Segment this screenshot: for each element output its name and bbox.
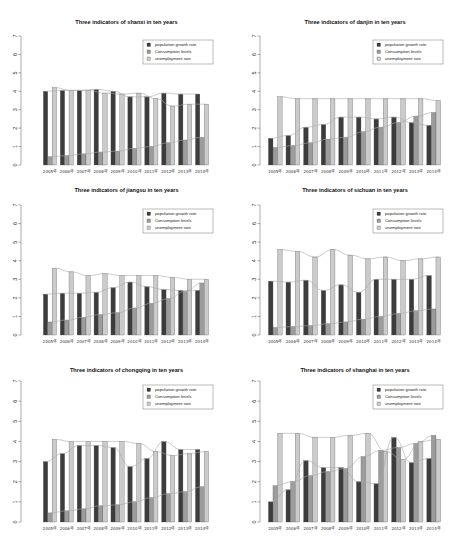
- chart-svg: Three indicators of shanxi in ten years0…: [0, 0, 229, 183]
- bar-unemployment-rate: [69, 90, 73, 165]
- legend-swatch: [147, 50, 151, 54]
- x-tick-label: 2007年: [303, 168, 317, 174]
- bar-population-growth-rate: [339, 468, 344, 522]
- legend-label: population growth rate: [385, 387, 427, 392]
- bar-unemployment-rate: [313, 257, 318, 335]
- x-tick-label: 2014年: [427, 338, 441, 344]
- bar-consumption-levels: [48, 322, 52, 335]
- y-axis: 01234567: [12, 34, 21, 166]
- bar-population-growth-rate: [60, 454, 64, 522]
- y-tick-label: 3: [12, 278, 18, 281]
- x-tick-label: 2013年: [178, 168, 192, 174]
- x-tick-label: 2010年: [127, 338, 141, 344]
- bar-unemployment-rate: [295, 433, 300, 522]
- x-tick-label: 2006年: [286, 525, 300, 531]
- y-tick-label: 6: [251, 53, 257, 56]
- legend-swatch: [147, 219, 151, 223]
- bar-consumption-levels: [200, 487, 204, 522]
- y-tick-label: 1: [251, 500, 257, 503]
- chart-svg: Three indicators of danjin in ten years0…: [230, 0, 459, 183]
- chart-svg: Three indicators of chongqing in ten yea…: [0, 366, 229, 549]
- bars: [268, 97, 440, 165]
- y-tick-label: 0: [12, 163, 18, 166]
- bar-consumption-levels: [183, 291, 187, 335]
- x-tick-label: 2012年: [161, 168, 175, 174]
- y-tick-label: 0: [251, 520, 257, 523]
- legend-label: Consumption levels: [155, 49, 192, 54]
- bar-unemployment-rate: [204, 452, 208, 523]
- bar-consumption-levels: [98, 152, 102, 165]
- legend-label: population growth rate: [155, 42, 197, 47]
- chart-panel-danjin: Three indicators of danjin in ten years0…: [230, 0, 459, 183]
- legend-label: Consumption levels: [155, 394, 192, 399]
- bar-population-growth-rate: [409, 279, 414, 335]
- legend-swatch: [377, 402, 381, 406]
- legend-swatch: [147, 57, 151, 61]
- bar-population-growth-rate: [111, 447, 115, 522]
- y-tick-label: 3: [251, 108, 257, 111]
- bar-unemployment-rate: [418, 259, 423, 335]
- bar-unemployment-rate: [313, 99, 318, 165]
- bar-unemployment-rate: [86, 441, 90, 522]
- bar-consumption-levels: [361, 132, 366, 165]
- x-tick-label: 2008年: [321, 168, 335, 174]
- x-tick-label: 2005年: [43, 338, 57, 344]
- legend-swatch: [147, 388, 151, 392]
- x-tick-label: 2011年: [144, 338, 158, 344]
- bar-population-growth-rate: [286, 490, 291, 522]
- bar-population-growth-rate: [195, 449, 199, 522]
- y-tick-label: 5: [251, 241, 257, 244]
- x-tick-label: 2005年: [268, 338, 282, 344]
- bar-consumption-levels: [132, 502, 136, 522]
- bar-consumption-levels: [414, 443, 419, 522]
- x-tick-label: 2009年: [339, 168, 353, 174]
- y-tick-label: 7: [251, 34, 257, 37]
- bar-consumption-levels: [431, 435, 436, 522]
- chart-title: Three indicators of danjin in ten years: [304, 19, 405, 25]
- y-tick-label: 5: [12, 71, 18, 74]
- x-tick-label: 2014年: [195, 338, 209, 344]
- bar-population-growth-rate: [179, 449, 183, 522]
- bar-unemployment-rate: [436, 101, 441, 166]
- bar-unemployment-rate: [348, 99, 353, 165]
- bar-unemployment-rate: [348, 435, 353, 522]
- bars: [268, 250, 440, 335]
- bar-unemployment-rate: [418, 99, 423, 165]
- x-tick-label: 2012年: [161, 338, 175, 344]
- bar-consumption-levels: [273, 328, 278, 335]
- bar-unemployment-rate: [103, 441, 107, 522]
- x-tick-label: 2009年: [110, 338, 124, 344]
- x-tick-label: 2007年: [77, 338, 91, 344]
- bar-population-growth-rate: [268, 138, 273, 165]
- bar-consumption-levels: [115, 151, 119, 165]
- bar-consumption-levels: [431, 309, 436, 335]
- y-tick-label: 6: [12, 222, 18, 225]
- legend-label: Consumption levels: [385, 49, 422, 54]
- bar-consumption-levels: [115, 505, 119, 522]
- bar-consumption-levels: [273, 486, 278, 522]
- bar-population-growth-rate: [195, 290, 199, 335]
- bar-population-growth-rate: [392, 117, 397, 165]
- bar-population-growth-rate: [43, 462, 47, 522]
- x-tick-label: 2006年: [286, 338, 300, 344]
- legend-swatch: [377, 219, 381, 223]
- x-tick-label: 2013年: [178, 525, 192, 531]
- bar-consumption-levels: [361, 319, 366, 335]
- y-tick-label: 4: [251, 440, 257, 443]
- y-tick-label: 6: [12, 53, 18, 56]
- bar-population-growth-rate: [304, 461, 309, 522]
- bar-unemployment-rate: [120, 441, 124, 522]
- x-tick-label: 2010年: [356, 338, 370, 344]
- bars: [43, 88, 208, 165]
- y-tick-label: 3: [251, 460, 257, 463]
- legend: population growth rateConsumption levels…: [373, 385, 443, 409]
- bar-consumption-levels: [115, 313, 119, 335]
- legend-swatch: [377, 388, 381, 392]
- bar-consumption-levels: [65, 320, 69, 335]
- legend-swatch: [377, 50, 381, 54]
- x-tick-label: 2009年: [339, 525, 353, 531]
- bar-population-growth-rate: [94, 292, 98, 335]
- y-tick-label: 0: [12, 520, 18, 523]
- bar-population-growth-rate: [392, 279, 397, 335]
- x-tick-label: 2010年: [356, 168, 370, 174]
